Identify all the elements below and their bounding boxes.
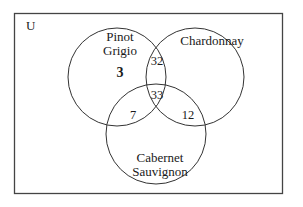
universe-label: U (26, 18, 36, 33)
region-pinot-cabernet: 7 (130, 108, 136, 122)
chardonnay-label: Chardonnay (180, 33, 244, 48)
pinot-grigio-label-line1: Pinot (106, 29, 134, 44)
region-pinot-chardonnay: 32 (151, 54, 164, 68)
venn-diagram: U Pinot Grigio Chardonnay Cabernet Sauvi… (0, 0, 303, 207)
region-chardonnay-cabernet: 12 (182, 108, 195, 122)
region-pinot-only: 3 (117, 65, 124, 80)
cabernet-label-line1: Cabernet (137, 150, 184, 165)
cabernet-label-line2: Sauvignon (132, 164, 188, 179)
region-all-three: 33 (151, 88, 164, 102)
pinot-grigio-label-line2: Grigio (103, 43, 137, 58)
